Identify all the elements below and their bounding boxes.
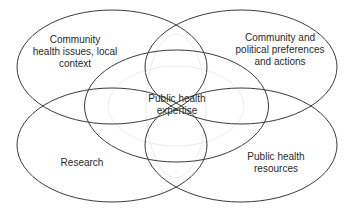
label-line: political preferences xyxy=(236,44,325,56)
label-line: expertise xyxy=(148,105,205,117)
label-line: context xyxy=(33,58,118,70)
label-line: Public health xyxy=(247,151,304,163)
label-line: resources xyxy=(247,163,304,175)
label-line: and actions xyxy=(236,56,325,68)
label-line: Community xyxy=(33,34,118,46)
label-line: Public health xyxy=(148,93,205,105)
label-line: Research xyxy=(61,157,104,169)
label-line: Community and xyxy=(236,32,325,44)
label-line: health issues, local xyxy=(33,46,118,58)
label-research: Research xyxy=(61,157,104,169)
label-public-health-resources: Public health resources xyxy=(247,151,304,175)
label-public-health-expertise: Public health expertise xyxy=(148,93,205,117)
label-community-health: Community health issues, local context xyxy=(33,34,118,70)
label-community-political: Community and political preferences and … xyxy=(236,32,325,68)
